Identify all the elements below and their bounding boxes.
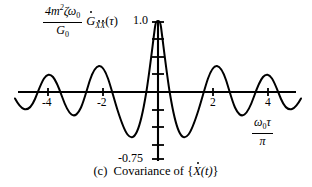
y-axis-tick-label-bottom: -0.75: [118, 152, 143, 164]
caption-index: (c): [93, 164, 107, 178]
y-axis-label-fraction: 4m2ζω0 G0: [43, 4, 82, 40]
y-axis-label-numerator: 4m2ζω0: [43, 4, 82, 21]
x-axis-tick-label-plus2: 2: [210, 97, 216, 109]
x-axis-label-fraction: ω0τ π: [252, 116, 273, 147]
y-axis-label-denominator: G0: [54, 24, 71, 40]
caption-text: Covariance of: [114, 164, 184, 178]
y-axis-label-function: GXX(τ): [86, 14, 118, 31]
x-axis-tick-label-minus4: -4: [42, 97, 52, 109]
x-axis-label-denominator: π: [257, 135, 267, 148]
figure-caption: (c) Covariance of {X(t)}: [0, 164, 312, 179]
x-axis-label-numerator: ω0τ: [252, 116, 273, 132]
x-axis-label: ω0τ π: [251, 116, 274, 147]
y-axis-label: 4m2ζω0 G0 GXX(τ): [42, 4, 118, 40]
y-axis-tick-label-top: 1.0: [133, 14, 148, 26]
figure-container: 4m2ζω0 G0 GXX(τ) 1.0 -0.75 -4 -2 2 4 ω0τ…: [0, 0, 312, 187]
caption-variable: X: [193, 164, 201, 179]
caption-brace-close: }: [213, 164, 219, 178]
x-axis-tick-label-plus4: 4: [265, 97, 271, 109]
caption-arg: (t): [201, 164, 213, 178]
x-axis-tick-label-minus2: -2: [97, 97, 107, 109]
